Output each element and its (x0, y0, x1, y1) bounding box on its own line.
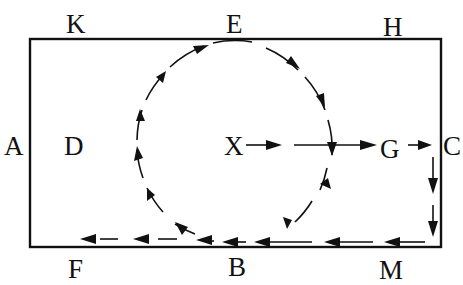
arrowhead-icon (428, 221, 438, 237)
right-edge-path (428, 157, 438, 237)
arrowhead-icon (428, 178, 438, 194)
label-x: X (224, 131, 244, 161)
label-d: D (64, 131, 84, 161)
label-g: G (380, 134, 400, 164)
straight-path-x-to-c (246, 140, 432, 156)
label-h: H (383, 12, 403, 42)
bottom-edge-path (80, 234, 425, 247)
arrowhead-icon (136, 109, 145, 121)
flow-diagram: K E H A D X G C F B M (0, 0, 463, 285)
arrowhead-icon (196, 235, 212, 245)
arrowhead-icon (134, 146, 143, 161)
arrowhead-icon (384, 237, 400, 247)
label-f: F (68, 254, 83, 284)
arrowhead-icon (80, 234, 96, 244)
label-m: M (379, 255, 403, 285)
arrowhead-icon (286, 56, 300, 69)
label-e: E (226, 9, 243, 39)
arrowhead-icon (193, 45, 209, 54)
arrowhead-icon (175, 222, 188, 235)
label-k: K (66, 9, 86, 39)
label-c: C (443, 131, 461, 161)
label-a: A (4, 131, 24, 161)
arrowhead-icon (133, 234, 149, 244)
arrowhead-icon (283, 217, 292, 229)
arrowhead-icon (360, 140, 377, 150)
arrowhead-icon (254, 237, 270, 247)
arrowhead-icon (324, 237, 340, 247)
arrowhead-icon (327, 142, 337, 156)
arrowhead-icon (418, 140, 432, 150)
arrowhead-icon (266, 140, 282, 150)
label-b: B (228, 252, 246, 282)
arrowhead-icon (222, 237, 238, 247)
